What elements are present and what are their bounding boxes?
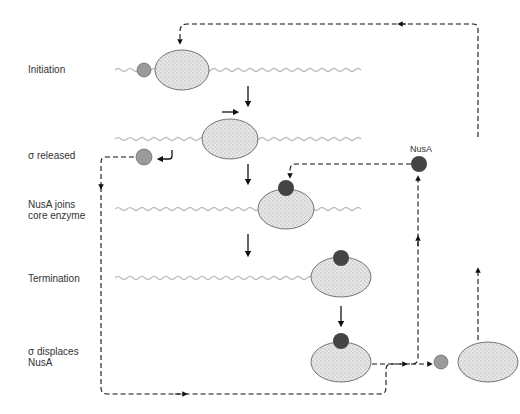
sigma-down-path bbox=[101, 157, 134, 187]
core-nusa-enzyme bbox=[258, 180, 314, 229]
released-enzyme bbox=[311, 333, 371, 382]
dna-strand bbox=[115, 208, 361, 211]
nusa bbox=[278, 180, 294, 196]
arrow-hook-icon bbox=[160, 150, 172, 159]
transcription-cycle-diagram bbox=[0, 0, 520, 414]
dna-strands bbox=[115, 69, 361, 280]
sigma-released bbox=[136, 149, 152, 165]
nusa bbox=[333, 250, 349, 266]
dna-strand bbox=[115, 69, 361, 72]
nusa-up-path bbox=[405, 178, 418, 364]
nusa-free bbox=[411, 156, 427, 172]
nusa-join-path bbox=[290, 164, 411, 176]
sigma-factor bbox=[137, 63, 151, 77]
holoenzyme-initiation bbox=[137, 50, 209, 90]
sigma-factor bbox=[434, 355, 448, 369]
termination-enzyme bbox=[311, 250, 371, 297]
reformed-holoenzyme bbox=[434, 342, 518, 382]
core-enzyme-elongation bbox=[202, 119, 258, 159]
nusa bbox=[333, 333, 349, 349]
